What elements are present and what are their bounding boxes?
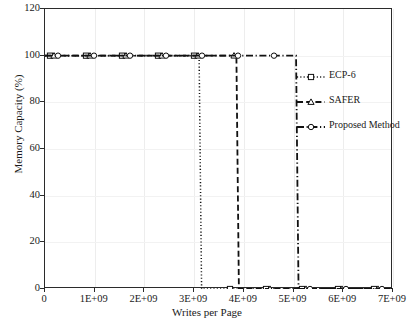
legend-label: SAFER: [329, 94, 360, 105]
x-tick-mark: [392, 288, 393, 292]
legend-item-ecp-6[interactable]: ECP-6: [296, 62, 408, 87]
legend-key-icon: [296, 69, 326, 81]
gridline-vertical: [393, 9, 394, 287]
y-tick-label: 0: [0, 283, 40, 293]
legend-key-icon: [296, 94, 326, 106]
data-point-marker: [335, 286, 340, 289]
gridline-horizontal: [45, 149, 391, 150]
y-tick-mark: [40, 101, 44, 102]
plot-area: [44, 8, 392, 288]
legend-label: Proposed Method: [329, 119, 400, 130]
x-tick-mark: [243, 288, 244, 292]
gridline-vertical: [244, 9, 245, 287]
gridline-horizontal: [45, 56, 391, 57]
data-point-marker: [303, 286, 309, 289]
y-tick-label: 120: [0, 3, 40, 13]
data-point-marker: [379, 286, 384, 289]
gridline-vertical: [343, 9, 344, 287]
y-tick-label: 100: [0, 50, 40, 60]
x-tick-mark: [193, 288, 194, 292]
y-tick-label: 60: [0, 143, 40, 153]
y-tick-mark: [40, 148, 44, 149]
data-point-marker: [263, 286, 268, 289]
gridline-vertical: [194, 9, 195, 287]
data-point-marker: [308, 124, 313, 129]
x-axis-title: Writes per Page: [0, 306, 414, 318]
data-point-marker: [267, 286, 273, 289]
y-tick-label: 40: [0, 190, 40, 200]
x-tick-mark: [44, 288, 45, 292]
legend-key-icon: [296, 119, 326, 131]
gridline-vertical: [95, 9, 96, 287]
y-tick-mark: [40, 195, 44, 196]
gridline-horizontal: [45, 196, 391, 197]
data-point-marker: [371, 286, 376, 289]
data-point-marker: [299, 286, 304, 289]
gridline-vertical: [294, 9, 295, 287]
gridline-horizontal: [45, 242, 391, 243]
chart-legend: ECP-6SAFERProposed Method: [296, 62, 408, 137]
x-tick-mark: [94, 288, 95, 292]
data-point-marker: [308, 74, 313, 79]
legend-item-safer[interactable]: SAFER: [296, 87, 408, 112]
data-point-marker: [375, 286, 381, 289]
y-axis-title: Memory Capacity (%): [12, 54, 24, 194]
x-tick-label: 7E+09: [362, 293, 414, 304]
x-tick-mark: [342, 288, 343, 292]
y-tick-label: 20: [0, 236, 40, 246]
data-point-marker: [227, 286, 232, 289]
y-tick-mark: [40, 241, 44, 242]
y-tick-mark: [40, 8, 44, 9]
y-tick-label: 80: [0, 96, 40, 106]
chart-figure: Memory Capacity (%) 020406080100120 01E+…: [0, 0, 414, 325]
legend-label: ECP-6: [329, 69, 356, 80]
gridline-vertical: [144, 9, 145, 287]
legend-item-proposed-method[interactable]: Proposed Method: [296, 112, 408, 137]
data-point-marker: [307, 286, 312, 289]
y-tick-mark: [40, 55, 44, 56]
x-tick-mark: [293, 288, 294, 292]
x-tick-mark: [143, 288, 144, 292]
